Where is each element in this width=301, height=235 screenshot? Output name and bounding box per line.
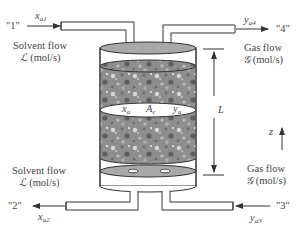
height-L-label: L	[218, 104, 224, 116]
section-area-label: Ac	[146, 103, 156, 118]
solvent-flow-top-label: Solvent flowℒ (mol/s)	[10, 40, 70, 64]
stream-2-label: "2"	[8, 200, 22, 212]
flow-units: (mol/s)	[256, 175, 286, 186]
gas-flow-bottom-label: Gas flow𝒢 (mol/s)	[238, 163, 294, 187]
y-sub: a4	[249, 19, 256, 27]
x-a1-label: xa1	[35, 10, 47, 25]
x-sub: a1	[40, 15, 47, 23]
bottom-left-pipe	[66, 191, 138, 210]
section-ya-label: ya	[173, 103, 181, 118]
flow-label-text: Gas flow	[238, 163, 294, 175]
stream-4-label: "4"	[276, 23, 290, 35]
flow-label-text: Gas flow	[235, 42, 291, 54]
xa-sub: a	[127, 108, 131, 116]
z-axis-label: z	[269, 126, 273, 138]
flow-symbol: ℒ	[19, 177, 27, 188]
flow-label-text: Solvent flow	[10, 40, 70, 52]
flow-units: (mol/s)	[253, 54, 283, 65]
section-xa-label: xa	[122, 103, 130, 118]
flow-symbol: 𝒢	[243, 54, 250, 65]
gas-flow-top-label: Gas flow𝒢 (mol/s)	[235, 42, 291, 66]
y-a4-label: ya4	[244, 14, 256, 29]
flow-symbol: ℒ	[20, 52, 28, 63]
x-sub: a2	[43, 216, 50, 224]
y-a3-label: ya3	[250, 212, 262, 227]
y-sub: a3	[255, 217, 262, 225]
bottom-right-pipe	[162, 191, 233, 210]
flow-symbol: 𝒢	[246, 175, 253, 186]
area-sub: c	[152, 108, 155, 116]
flow-units: (mol/s)	[29, 177, 59, 188]
x-a2-label: xa2	[38, 211, 50, 226]
ya-sub: a	[178, 108, 182, 116]
stream-3-label: "3"	[276, 200, 290, 212]
flow-units: (mol/s)	[30, 52, 60, 63]
solvent-flow-bottom-label: Solvent flowℒ (mol/s)	[8, 165, 70, 189]
stream-1-label: "1"	[6, 20, 20, 32]
flow-label-text: Solvent flow	[8, 165, 70, 177]
